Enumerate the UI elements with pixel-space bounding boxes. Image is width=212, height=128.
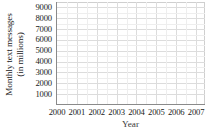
y-axis-tick-labels: 900080007000600050004000300020001000 — [24, 0, 54, 106]
y-axis-tick-label: 5000 — [35, 46, 52, 55]
gridline-horizontal — [57, 83, 205, 84]
plot-top-edge — [57, 2, 205, 3]
x-axis-tick-label: 2000 — [49, 107, 66, 117]
x-axis-title: Year — [56, 119, 205, 128]
gridline-horizontal — [57, 29, 205, 30]
y-axis-tick-label: 3000 — [35, 68, 52, 77]
x-axis-tick-label: 2005 — [148, 107, 165, 117]
gridline-horizontal-minor — [57, 24, 205, 25]
gridline-horizontal — [57, 40, 205, 41]
chart-container: Monthly text messages (in millions) 9000… — [0, 0, 212, 128]
gridline-horizontal — [57, 94, 205, 95]
gridline-horizontal — [57, 72, 205, 73]
y-axis-tick-label: 7000 — [35, 25, 52, 34]
gridline-horizontal-minor — [57, 56, 205, 57]
y-axis-tick-label: 1000 — [35, 90, 52, 99]
plot-gridlines — [57, 2, 205, 104]
y-axis-tick-label: 2000 — [35, 79, 52, 88]
y-axis-tick-label: 4000 — [35, 57, 52, 66]
x-axis-tick-label: 2001 — [69, 107, 86, 117]
gridline-horizontal-minor — [57, 13, 205, 14]
y-axis-tick-label: 9000 — [35, 3, 52, 12]
gridline-horizontal — [57, 51, 205, 52]
gridline-horizontal — [57, 7, 205, 8]
gridline-horizontal — [57, 62, 205, 63]
x-axis-tick-labels: 20002001200220032004200520062007 — [56, 107, 212, 119]
gridline-horizontal-minor — [57, 45, 205, 46]
gridline-horizontal-minor — [57, 35, 205, 36]
plot-area — [56, 2, 205, 105]
gridline-horizontal-minor — [57, 67, 205, 68]
gridline-horizontal — [57, 18, 205, 19]
y-axis-tick-label: 8000 — [35, 14, 52, 23]
gridline-horizontal-minor — [57, 89, 205, 90]
gridline-horizontal-minor — [57, 78, 205, 79]
y-axis-title-line2: (in millions) — [14, 13, 25, 96]
x-axis-tick-label: 2004 — [128, 107, 145, 117]
y-axis-title-line1: Monthly text messages — [4, 13, 14, 96]
y-axis-tick-label: 6000 — [35, 35, 52, 44]
x-axis-tick-label: 2002 — [88, 107, 105, 117]
x-axis-tick-label: 2003 — [108, 107, 125, 117]
x-axis-tick-label: 2006 — [168, 107, 185, 117]
x-axis-tick-label: 2007 — [188, 107, 205, 117]
